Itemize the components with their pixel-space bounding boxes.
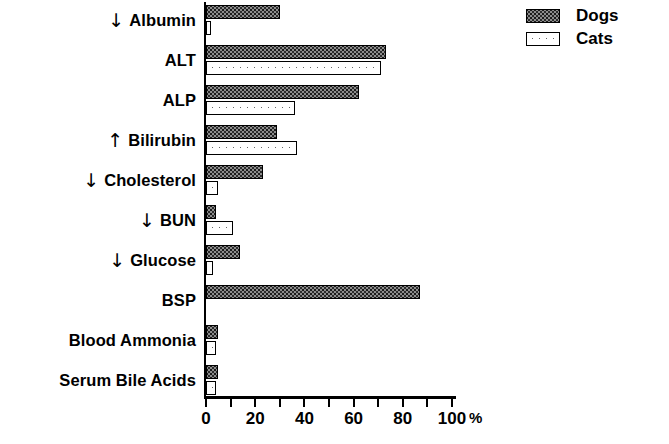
axis-tick — [230, 399, 232, 407]
bar-dogs — [206, 45, 386, 59]
legend-item: Dogs — [526, 6, 619, 26]
bar-cats — [206, 141, 297, 155]
axis-tick-label: 100 — [438, 409, 466, 429]
plot-area — [204, 2, 452, 398]
bar-group — [206, 82, 452, 122]
category-label-row: ↓Serum Bile Acids — [0, 360, 196, 400]
category-label: Albumin — [129, 11, 196, 30]
category-label: BUN — [160, 211, 196, 230]
axis-tick-label: 80 — [393, 409, 412, 429]
category-axis: ↓Albumin↓ALT↓ALP↑Bilirubin↓Cholesterol↓B… — [0, 0, 200, 400]
bar-group — [206, 322, 452, 362]
bar-dogs — [206, 165, 263, 179]
bar-dogs — [206, 285, 420, 299]
category-label-row: ↓Cholesterol — [0, 160, 196, 200]
category-label-row: ↓ALT — [0, 40, 196, 80]
legend-swatch-dogs — [526, 9, 560, 23]
bar-group — [206, 202, 452, 242]
category-label: Serum Bile Acids — [59, 371, 196, 390]
bar-cats — [206, 21, 211, 35]
bar-group — [206, 42, 452, 82]
category-label-row: ↑Bilirubin — [0, 120, 196, 160]
bar-cats — [206, 61, 381, 75]
axis-unit-label: % — [469, 409, 482, 426]
chart-legend: DogsCats — [526, 6, 619, 52]
axis-tick — [328, 399, 330, 407]
bar-cats — [206, 221, 233, 235]
bar-dogs — [206, 85, 359, 99]
bar-dogs — [206, 125, 277, 139]
axis-tick — [254, 399, 256, 407]
axis-tick-label: 40 — [295, 409, 314, 429]
axis-tick — [402, 399, 404, 407]
category-label: Bilirubin — [128, 131, 196, 150]
bar-cats — [206, 101, 295, 115]
axis-tick-label: 20 — [246, 409, 265, 429]
axis-tick — [303, 399, 305, 407]
bar-dogs — [206, 205, 216, 219]
category-label: ALP — [163, 91, 196, 110]
down-arrow-icon: ↓ — [139, 211, 151, 230]
category-label-row: ↓Blood Ammonia — [0, 320, 196, 360]
category-label: ALT — [165, 51, 196, 70]
category-label-row: ↓BSP — [0, 280, 196, 320]
axis-tick-label: 0 — [201, 409, 210, 429]
category-label: Cholesterol — [104, 171, 196, 190]
bar-dogs — [206, 245, 240, 259]
bar-group — [206, 122, 452, 162]
x-axis-line — [204, 396, 456, 399]
axis-tick — [353, 399, 355, 407]
legend-label: Cats — [576, 29, 613, 49]
bar-cats — [206, 381, 216, 395]
category-label: Blood Ammonia — [69, 331, 196, 350]
bar-group — [206, 242, 452, 282]
legend-item: Cats — [526, 29, 619, 49]
bar-dogs — [206, 365, 218, 379]
legend-label: Dogs — [576, 6, 619, 26]
bar-group — [206, 2, 452, 42]
bar-group — [206, 282, 452, 322]
axis-tick — [279, 399, 281, 407]
axis-tick-label: 60 — [344, 409, 363, 429]
down-arrow-icon: ↓ — [108, 11, 120, 30]
category-label-row: ↓Albumin — [0, 0, 196, 40]
axis-tick — [451, 399, 453, 407]
category-label: BSP — [162, 291, 196, 310]
axis-tick — [426, 399, 428, 407]
bar-cats — [206, 261, 213, 275]
category-label-row: ↓Glucose — [0, 240, 196, 280]
bar-chart: ↓Albumin↓ALT↓ALP↑Bilirubin↓Cholesterol↓B… — [0, 0, 669, 444]
down-arrow-icon: ↓ — [109, 251, 121, 270]
up-arrow-icon: ↑ — [107, 131, 119, 150]
category-label-row: ↓ALP — [0, 80, 196, 120]
legend-swatch-cats — [526, 32, 560, 46]
bar-cats — [206, 341, 216, 355]
category-label-row: ↓BUN — [0, 200, 196, 240]
down-arrow-icon: ↓ — [83, 171, 95, 190]
bar-cats — [206, 181, 218, 195]
bar-dogs — [206, 325, 218, 339]
bar-dogs — [206, 5, 280, 19]
category-label: Glucose — [130, 251, 196, 270]
axis-tick — [205, 399, 207, 407]
axis-tick — [377, 399, 379, 407]
bar-group — [206, 162, 452, 202]
